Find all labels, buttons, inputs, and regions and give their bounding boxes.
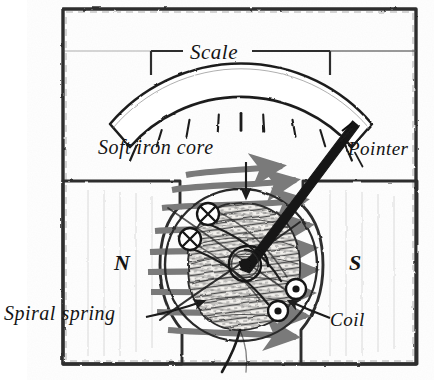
label-north-pole: N (114, 252, 130, 274)
dot-in-circle-icon (286, 279, 306, 299)
cross-in-circle-icon (197, 203, 219, 225)
label-scale: Scale (190, 42, 238, 63)
dot-in-circle-icon (268, 301, 288, 321)
cross-in-circle-icon (179, 228, 201, 250)
label-soft-iron-core: Soft iron core (98, 137, 214, 157)
label-south-pole: S (349, 252, 362, 274)
galvanometer-diagram: Scale Soft iron core Pointer Spiral spri… (0, 0, 434, 380)
label-spiral-spring: Spiral spring (4, 303, 116, 323)
label-coil: Coil (330, 310, 365, 329)
label-pointer: Pointer (348, 139, 409, 158)
